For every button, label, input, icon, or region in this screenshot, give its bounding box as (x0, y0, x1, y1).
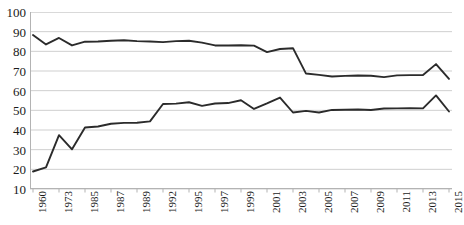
x-tick-label: 2013 (427, 191, 438, 213)
y-tick-label: 70 (13, 65, 26, 78)
y-tick-label: 40 (13, 124, 26, 137)
x-tick-label: 1992 (167, 191, 178, 213)
x-tick-label: 1985 (89, 191, 100, 213)
x-tick-label: 1987 (115, 191, 126, 213)
series-line-upper-series (33, 35, 449, 79)
x-tick-label: 2001 (271, 191, 282, 213)
plot-area (30, 12, 452, 189)
x-tick-label: 1960 (37, 191, 48, 213)
y-tick-label: 50 (13, 104, 26, 117)
y-tick-label: 90 (13, 25, 26, 38)
y-tick-label: 30 (13, 143, 26, 156)
x-tick-label: 2007 (349, 191, 360, 213)
x-tick-label: 1995 (193, 191, 204, 213)
x-tick-label: 1997 (219, 191, 230, 213)
x-tick-label: 2005 (323, 191, 334, 213)
x-axis-labels: 1960197319851987198919921995199719992001… (30, 191, 452, 225)
x-tick-label: 2009 (375, 191, 386, 213)
x-tick-label: 1999 (245, 191, 256, 213)
y-tick-label: 60 (13, 84, 26, 97)
x-tick-label: 2011 (401, 191, 412, 213)
y-tick-label: 100 (7, 6, 27, 19)
series-line-lower-series (33, 95, 449, 171)
y-axis-labels: 100908070605040302010 (0, 0, 30, 201)
x-tick-label: 2015 (453, 191, 464, 213)
y-tick-label: 20 (13, 163, 26, 176)
clipped-caption-fragment: · · (34, 0, 43, 2)
x-tick-label: 1973 (63, 191, 74, 213)
plot-svg (30, 12, 452, 194)
y-tick-label: 10 (13, 183, 26, 196)
y-tick-label: 80 (13, 45, 26, 58)
x-tick-label: 2003 (297, 191, 308, 213)
x-tick-label: 1989 (141, 191, 152, 213)
